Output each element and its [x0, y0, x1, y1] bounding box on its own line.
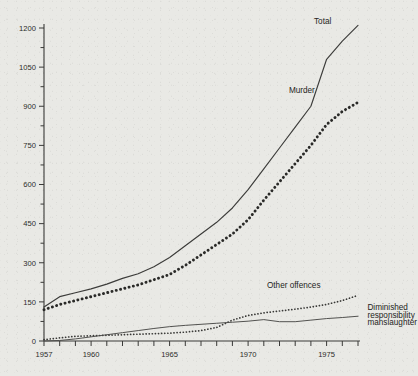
y-tick-label: 1200 — [19, 24, 36, 33]
y-tick-label: 0 — [32, 337, 36, 346]
chart-series-annotations: TotalMurderOther offencesDiminishedrespo… — [267, 17, 417, 327]
series-line-total — [44, 25, 358, 307]
chart-plot-area — [44, 25, 358, 341]
x-tick-label: 1957 — [36, 350, 53, 359]
y-tick-label: 150 — [23, 298, 36, 307]
y-tick-label: 1050 — [19, 63, 36, 72]
chart-tick-labels: 0150300450600750900105012001957196019651… — [19, 24, 335, 359]
y-tick-label: 750 — [23, 141, 36, 150]
y-tick-label: 900 — [23, 102, 36, 111]
series-label-other-offences: Other offences — [267, 281, 321, 290]
chart-container: 0150300450600750900105012001957196019651… — [0, 0, 418, 376]
series-label-total: Total — [314, 17, 331, 26]
series-line-diminished-responsibility-manslaughter — [44, 316, 358, 341]
series-label-manslaughter: manslaughter — [367, 318, 417, 327]
series-line-other-offences — [44, 295, 358, 339]
x-tick-label: 1970 — [240, 350, 257, 359]
series-line-murder — [44, 102, 358, 309]
x-tick-label: 1965 — [161, 350, 178, 359]
x-tick-label: 1975 — [318, 350, 335, 359]
line-chart: 0150300450600750900105012001957196019651… — [0, 0, 418, 376]
y-tick-label: 600 — [23, 180, 36, 189]
y-tick-label: 300 — [23, 259, 36, 268]
y-tick-label: 450 — [23, 219, 36, 228]
x-tick-label: 1960 — [83, 350, 100, 359]
series-label-murder: Murder — [289, 86, 315, 95]
